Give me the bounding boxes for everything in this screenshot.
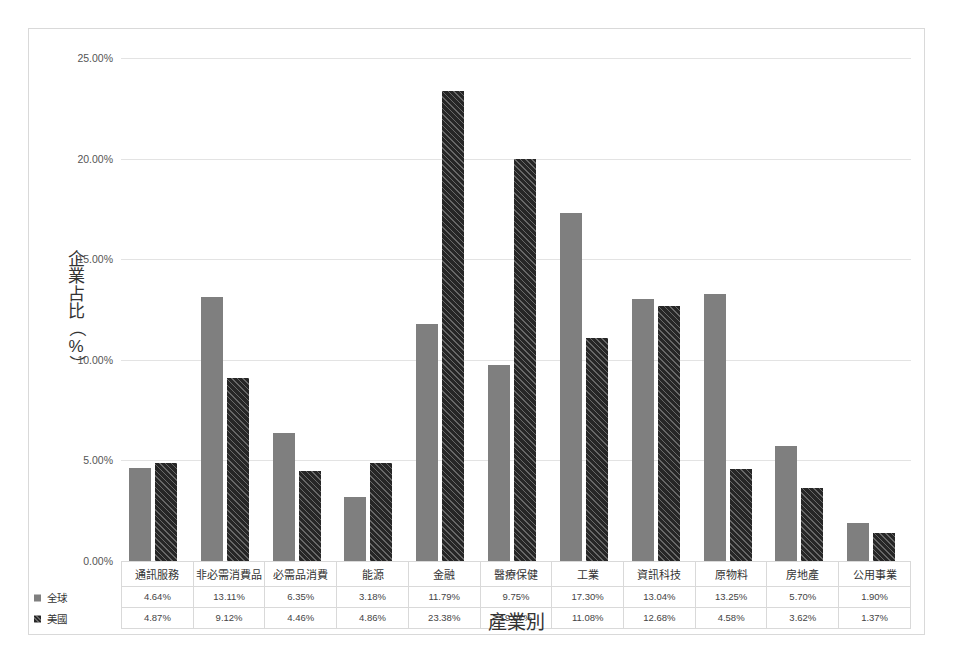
table-header-cell: 醫療保健 [480, 562, 552, 587]
y-tick-label: 25.00% [77, 52, 113, 64]
legend-swatch-icon [34, 595, 41, 602]
bar-1[interactable] [730, 469, 752, 561]
bar-group [408, 58, 480, 561]
table-header-cell: 原物料 [695, 562, 767, 587]
table-value-cell: 5.70% [767, 587, 839, 608]
table-row-series-0: 4.64%13.11%6.35%3.18%11.79%9.75%17.30%13… [122, 587, 911, 608]
bar-group [336, 58, 408, 561]
table-header-cell: 非必需消費品 [193, 562, 265, 587]
bar-1[interactable] [873, 533, 895, 561]
bar-1[interactable] [442, 91, 464, 561]
bar-1[interactable] [801, 488, 823, 561]
y-tick-label: 20.00% [77, 153, 113, 165]
bar-1[interactable] [299, 471, 321, 561]
legend-item-0[interactable]: 全球 [29, 588, 121, 609]
table-header-cell: 資訊科技 [624, 562, 696, 587]
bar-1[interactable] [227, 378, 249, 561]
bar-0[interactable] [201, 297, 223, 561]
chart-frame: 企業占比（%） 0.00%5.00%10.00%15.00%20.00%25.0… [28, 28, 925, 635]
table-value-cell: 13.11% [193, 587, 265, 608]
y-tick-label: 10.00% [77, 354, 113, 366]
table-value-cell: 3.18% [337, 587, 409, 608]
table-header-cell: 公用事業 [839, 562, 911, 587]
bar-1[interactable] [155, 463, 177, 561]
bar-0[interactable] [488, 365, 510, 561]
table-value-cell: 17.30% [552, 587, 624, 608]
bar-group [767, 58, 839, 561]
table-value-cell: 13.25% [695, 587, 767, 608]
y-axis-title-char: 業 [63, 268, 89, 285]
bar-0[interactable] [273, 433, 295, 561]
bar-0[interactable] [632, 299, 654, 561]
bar-0[interactable] [704, 294, 726, 561]
table-header-cell: 房地產 [767, 562, 839, 587]
table-value-cell: 6.35% [265, 587, 337, 608]
bar-group [552, 58, 624, 561]
bar-0[interactable] [847, 523, 869, 561]
bar-group [696, 58, 768, 561]
x-axis-title: 產業別 [121, 607, 911, 634]
legend-label: 全球 [47, 592, 67, 604]
bar-group [839, 58, 911, 561]
bar-0[interactable] [344, 497, 366, 561]
plot-area: 0.00%5.00%10.00%15.00%20.00%25.00% [121, 58, 911, 561]
y-tick-label: 0.00% [83, 555, 113, 567]
bar-group [121, 58, 193, 561]
bar-group [265, 58, 337, 561]
bar-1[interactable] [370, 463, 392, 561]
bar-group [480, 58, 552, 561]
bar-0[interactable] [775, 446, 797, 561]
table-value-cell: 9.75% [480, 587, 552, 608]
bar-0[interactable] [416, 324, 438, 561]
legend-item-1[interactable]: 美國 [29, 609, 121, 630]
y-axis-title-char: 占 [63, 286, 89, 303]
legend-swatch-icon [34, 616, 41, 623]
y-tick-label: 5.00% [83, 454, 113, 466]
bar-group [193, 58, 265, 561]
bar-1[interactable] [658, 306, 680, 561]
table-header-cell: 工業 [552, 562, 624, 587]
plot-wrap: 企業占比（%） 0.00%5.00%10.00%15.00%20.00%25.0… [29, 29, 924, 634]
y-axis-title-char: （ [67, 316, 84, 342]
table-header-cell: 通訊服務 [122, 562, 194, 587]
bar-0[interactable] [129, 468, 151, 561]
bar-group [624, 58, 696, 561]
bar-1[interactable] [514, 159, 536, 561]
table-value-cell: 1.90% [839, 587, 911, 608]
table-header-cell: 必需品消費 [265, 562, 337, 587]
table-header-cell: 能源 [337, 562, 409, 587]
table-value-cell: 4.64% [122, 587, 194, 608]
legend-label: 美國 [47, 613, 67, 625]
table-value-cell: 13.04% [624, 587, 696, 608]
bar-0[interactable] [560, 213, 582, 561]
bar-1[interactable] [586, 338, 608, 561]
table-header-cell: 金融 [408, 562, 480, 587]
y-tick-label: 15.00% [77, 253, 113, 265]
table-row-categories: 通訊服務非必需消費品必需品消費能源金融醫療保健工業資訊科技原物料房地產公用事業 [122, 562, 911, 587]
table-value-cell: 11.79% [408, 587, 480, 608]
